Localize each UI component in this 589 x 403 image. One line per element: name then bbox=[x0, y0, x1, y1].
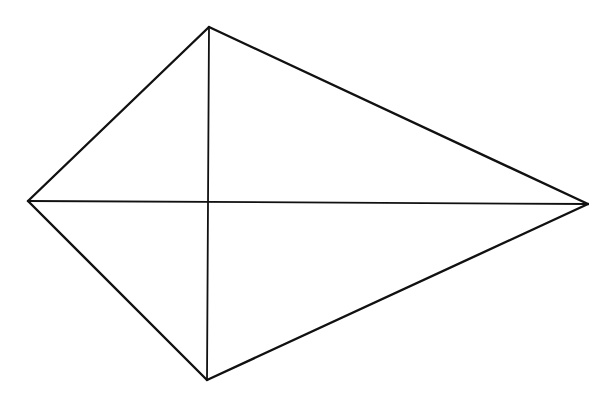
edge-left-top bbox=[28, 27, 209, 201]
diagonal-left-right bbox=[28, 201, 588, 204]
kite-diagram bbox=[0, 0, 589, 403]
edge-top-right bbox=[209, 27, 588, 204]
kite-diagonals bbox=[28, 27, 588, 380]
edge-bottom-left bbox=[28, 201, 207, 380]
diagonal-top-bottom bbox=[207, 27, 209, 380]
edge-right-bottom bbox=[207, 204, 588, 380]
